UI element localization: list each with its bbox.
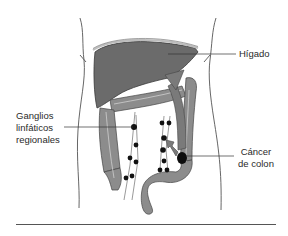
label-lymph-nodes-line3: regionales <box>16 134 60 146</box>
tumor <box>177 152 187 164</box>
label-lymph-nodes-line1: Ganglios <box>16 110 60 122</box>
label-cancer-line1: Cáncer <box>238 146 274 158</box>
label-cancer-line2: de colon <box>238 158 274 170</box>
metastasis-arrow-to-liver <box>165 70 186 150</box>
lymph-node <box>162 159 167 164</box>
label-lymph-nodes-line2: linfáticos <box>16 122 60 134</box>
spread-arrow-to-nodes <box>166 140 178 156</box>
label-lymph-nodes: Ganglios linfáticos regionales <box>16 110 60 146</box>
lymph-nodes <box>124 121 172 181</box>
lymph-node <box>130 174 135 179</box>
lymph-node <box>134 160 139 165</box>
label-colon-cancer: Cáncer de colon <box>238 146 274 170</box>
lymph-node <box>124 176 129 181</box>
bottom-divider <box>16 224 276 225</box>
lymph-node <box>134 143 139 148</box>
lymph-node <box>167 121 172 126</box>
lymph-node <box>128 156 133 161</box>
lymph-node <box>158 168 163 173</box>
label-liver-text: Hígado <box>239 48 270 59</box>
lymph-node <box>160 147 166 153</box>
label-liver: Hígado <box>239 48 270 60</box>
lymph-node <box>165 168 170 173</box>
lymph-node <box>160 121 165 126</box>
